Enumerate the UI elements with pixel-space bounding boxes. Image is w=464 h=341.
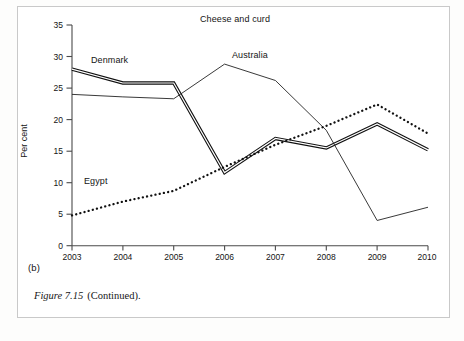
figure-caption: Figure 7.15(Continued). <box>34 290 141 301</box>
series-line-australia <box>72 64 428 220</box>
y-tick-label-30: 30 <box>41 52 63 62</box>
x-tick-label-2004: 2004 <box>106 252 140 262</box>
x-tick-label-2006: 2006 <box>208 252 242 262</box>
y-tick-label-35: 35 <box>41 20 63 30</box>
y-tick-label-10: 10 <box>41 178 63 188</box>
y-tick-label-5: 5 <box>41 209 63 219</box>
x-tick-label-2007: 2007 <box>258 252 292 262</box>
x-tick-label-2009: 2009 <box>360 252 394 262</box>
y-tick-label-25: 25 <box>41 83 63 93</box>
x-tick-label-2003: 2003 <box>55 252 89 262</box>
x-tick-marks <box>72 246 428 251</box>
y-tick-marks <box>67 25 73 246</box>
x-tick-label-2005: 2005 <box>157 252 191 262</box>
y-tick-label-15: 15 <box>41 146 63 156</box>
chart-title: Cheese and curd <box>200 14 270 24</box>
series-annotation-denmark: Denmark <box>91 55 128 65</box>
series-australia <box>72 64 428 220</box>
panel-letter: (b) <box>28 262 40 273</box>
y-axis-title: Per cent <box>19 101 29 181</box>
series-annotation-egypt: Egypt <box>84 176 108 186</box>
series-denmark <box>72 69 428 172</box>
x-tick-label-2010: 2010 <box>410 252 444 262</box>
series-line-denmark-outer <box>72 69 428 172</box>
series-annotation-australia: Australia <box>232 50 268 60</box>
series-egypt <box>72 104 428 215</box>
x-tick-label-2008: 2008 <box>309 252 343 262</box>
y-tick-label-0: 0 <box>41 241 63 251</box>
figure-caption-number: Figure 7.15 <box>34 290 83 301</box>
figure-caption-text: (Continued). <box>87 290 140 301</box>
figure-container: 35 30 25 20 15 10 5 0 2003 2004 2005 200… <box>0 0 464 341</box>
chart-series-layer <box>72 64 428 220</box>
page-background: 35 30 25 20 15 10 5 0 2003 2004 2005 200… <box>0 0 464 341</box>
y-tick-label-20: 20 <box>41 115 63 125</box>
series-line-egypt <box>72 104 428 215</box>
